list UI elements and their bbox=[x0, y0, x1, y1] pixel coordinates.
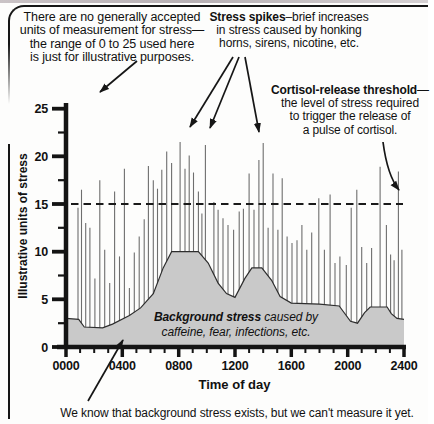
background-label-line: caffeine, fear, infections, etc. bbox=[141, 325, 331, 340]
units-note-line: is just for illustrative purposes. bbox=[5, 51, 219, 64]
background-stress-label: Background stress caused by caffeine, fe… bbox=[141, 310, 331, 339]
stress-spike-arrow-1 bbox=[190, 57, 233, 127]
units-note-line: units of measurement for stress— bbox=[5, 24, 219, 37]
svg-text:1600: 1600 bbox=[278, 359, 305, 373]
svg-text:15: 15 bbox=[34, 198, 48, 212]
cortisol-note-line: to trigger the release of bbox=[263, 110, 434, 123]
stress-spike-arrow-2 bbox=[210, 57, 239, 128]
svg-text:1200: 1200 bbox=[221, 359, 248, 373]
units-note-arrow bbox=[100, 61, 137, 92]
figure-caption: We know that background stress exists, b… bbox=[22, 406, 434, 420]
svg-text:5: 5 bbox=[41, 293, 48, 307]
units-note: There are no generally accepted units of… bbox=[5, 11, 219, 65]
svg-text:2400: 2400 bbox=[390, 359, 417, 373]
svg-text:20: 20 bbox=[34, 150, 48, 164]
svg-text:0400: 0400 bbox=[109, 359, 136, 373]
units-note-line: There are no generally accepted bbox=[5, 11, 219, 24]
svg-text:10: 10 bbox=[34, 245, 48, 259]
stress-spikes-note: Stress spikes–brief increases in stress … bbox=[203, 11, 375, 51]
stress-spike-arrow-3 bbox=[245, 57, 259, 132]
svg-text:2000: 2000 bbox=[334, 359, 361, 373]
svg-text:0800: 0800 bbox=[165, 359, 192, 373]
spikes-note-line: horns, sirens, nicotine, etc. bbox=[203, 37, 375, 50]
y-axis-title: Illustrative units of stress bbox=[16, 146, 30, 306]
cortisol-note-line: a pulse of cortisol. bbox=[263, 124, 434, 137]
cortisol-arrow bbox=[383, 142, 399, 190]
svg-text:0: 0 bbox=[41, 341, 48, 355]
svg-text:25: 25 bbox=[34, 102, 48, 116]
x-axis-title: Time of day bbox=[164, 377, 305, 392]
svg-text:0000: 0000 bbox=[52, 359, 79, 373]
units-note-line: the range of 0 to 25 used here bbox=[5, 38, 219, 51]
background-label-line: Background stress caused by bbox=[141, 310, 331, 325]
border-fade bbox=[5, 44, 14, 144]
cortisol-threshold-note: Cortisol-release threshold— the level of… bbox=[263, 84, 434, 137]
